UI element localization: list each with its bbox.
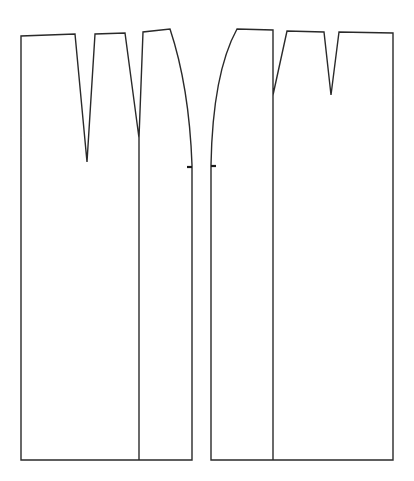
right-pattern-piece [211,29,393,460]
left-pattern-piece [21,29,192,460]
left-piece-outline [21,29,192,460]
right-piece-outline [211,29,393,460]
pattern-svg [0,0,414,481]
pattern-diagram [0,0,414,481]
